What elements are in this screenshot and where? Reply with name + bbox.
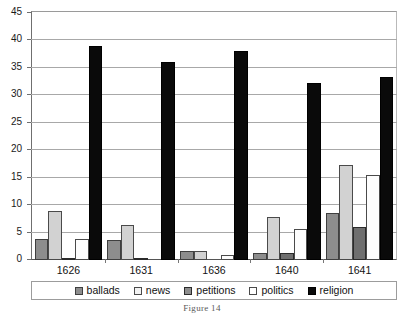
x-axis-tick-mark <box>250 259 251 263</box>
legend-swatch-news-icon <box>134 287 142 295</box>
gridline <box>31 94 397 95</box>
y-axis-tick-mark <box>27 94 31 95</box>
bar-news-1640 <box>267 217 281 260</box>
y-axis-tick-label: 40 <box>0 34 22 44</box>
bar-petitions-1640 <box>280 253 294 260</box>
x-axis-tick-label-1631: 1631 <box>105 264 178 276</box>
bar-news-1636 <box>194 251 208 260</box>
bar-ballads-1641 <box>326 213 340 260</box>
y-axis-tick-label: 45 <box>0 7 22 17</box>
figure-caption: Figure 14 <box>0 303 404 313</box>
y-axis-tick-label: 20 <box>0 144 22 154</box>
y-axis-tick-label: 25 <box>0 117 22 127</box>
bar-politics-1641 <box>366 175 380 260</box>
bar-petitions-1631 <box>134 258 148 260</box>
legend-swatch-ballads-icon <box>75 287 83 295</box>
y-axis-tick-mark <box>27 232 31 233</box>
x-axis-tick-label-1626: 1626 <box>32 264 105 276</box>
bar-religion-1626 <box>89 46 103 260</box>
legend-label-politics: politics <box>261 285 293 296</box>
y-axis-tick-mark <box>27 67 31 68</box>
bar-religion-1641 <box>380 77 394 260</box>
bar-petitions-1626 <box>62 258 76 260</box>
legend-label-petitions: petitions <box>196 285 235 296</box>
legend-item-politics: politics <box>249 285 293 296</box>
gridline <box>31 39 397 40</box>
legend-label-religion: religion <box>320 285 354 296</box>
y-axis-tick-mark <box>27 149 31 150</box>
legend-item-petitions: petitions <box>184 285 235 296</box>
chart-legend: balladsnewspetitionspoliticsreligion <box>31 281 397 300</box>
legend-label-ballads: ballads <box>87 285 120 296</box>
bar-religion-1640 <box>307 83 321 260</box>
bar-politics-1626 <box>75 239 89 260</box>
y-axis-tick-label: 15 <box>0 172 22 182</box>
bar-religion-1631 <box>161 62 175 260</box>
bar-petitions-1641 <box>353 227 367 260</box>
gridline <box>31 67 397 68</box>
x-axis-tick-mark <box>178 259 179 263</box>
bar-news-1641 <box>339 165 353 260</box>
bar-news-1631 <box>121 225 135 260</box>
x-axis-tick-label-1641: 1641 <box>323 264 396 276</box>
chart-plot-area <box>31 11 397 260</box>
bar-ballads-1626 <box>35 239 49 260</box>
y-axis-tick-mark <box>27 122 31 123</box>
bar-ballads-1640 <box>253 253 267 260</box>
x-axis-tick-label-1640: 1640 <box>250 264 323 276</box>
y-axis-tick-label: 10 <box>0 199 22 209</box>
gridline <box>31 149 397 150</box>
gridline <box>31 122 397 123</box>
y-axis-tick-mark <box>27 204 31 205</box>
y-axis-tick-mark <box>27 259 31 260</box>
y-axis-tick-label: 35 <box>0 62 22 72</box>
y-axis-tick-mark <box>27 39 31 40</box>
y-axis-tick-mark <box>27 12 31 13</box>
legend-item-news: news <box>134 285 171 296</box>
bar-religion-1636 <box>234 51 248 260</box>
bar-politics-1640 <box>294 229 308 260</box>
y-axis-tick-label: 5 <box>0 227 22 237</box>
legend-label-news: news <box>146 285 171 296</box>
figure-container: 051015202530354045 16261631163616401641 … <box>0 0 404 319</box>
legend-swatch-politics-icon <box>249 287 257 295</box>
bar-ballads-1631 <box>107 240 121 260</box>
x-axis-tick-label-1636: 1636 <box>178 264 251 276</box>
legend-item-religion: religion <box>308 285 354 296</box>
y-axis-tick-mark <box>27 177 31 178</box>
bar-ballads-1636 <box>180 251 194 260</box>
x-axis-tick-mark <box>105 259 106 263</box>
legend-swatch-religion-icon <box>308 287 316 295</box>
bar-news-1626 <box>48 211 62 260</box>
y-axis-tick-label: 30 <box>0 89 22 99</box>
x-axis-tick-mark <box>323 259 324 263</box>
legend-swatch-petitions-icon <box>184 287 192 295</box>
legend-item-ballads: ballads <box>75 285 120 296</box>
bar-politics-1636 <box>221 255 235 260</box>
y-axis-tick-label: 0 <box>0 254 22 264</box>
